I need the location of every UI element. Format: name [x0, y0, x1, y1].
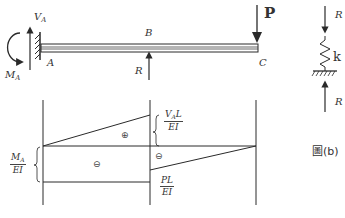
spring-stiffness-label: k — [333, 50, 341, 63]
spring-top-force-label: R — [335, 10, 343, 20]
label-b: B — [145, 28, 152, 38]
moment-ma-arrow — [8, 33, 20, 62]
label-p: P — [264, 6, 275, 21]
label-ma: MA — [5, 70, 20, 82]
fixed-support-icon — [35, 32, 40, 60]
brace-icon — [153, 115, 159, 146]
label-r: R — [135, 66, 143, 76]
spring-bottom-force-label: R — [335, 97, 343, 107]
figure-caption: 圖(b) — [312, 142, 339, 158]
label-c: C — [259, 58, 267, 68]
negative-sign-icon: ⊖ — [93, 160, 101, 169]
brace-icon — [34, 147, 40, 182]
load-p-arrow — [252, 5, 262, 43]
label-va-l-over-ei: VAL EI — [164, 110, 183, 132]
negative-sign-icon: ⊖ — [155, 152, 163, 161]
label-a: A — [47, 58, 54, 68]
label-ma-over-ei: MA EI — [10, 153, 26, 175]
label-pl-over-ei: PL EI — [160, 176, 174, 197]
spring-icon — [320, 40, 330, 71]
positive-sign-icon: ⊕ — [121, 131, 129, 140]
moment-diagram — [34, 100, 256, 205]
label-va: VA — [34, 12, 46, 24]
beam — [41, 44, 258, 52]
